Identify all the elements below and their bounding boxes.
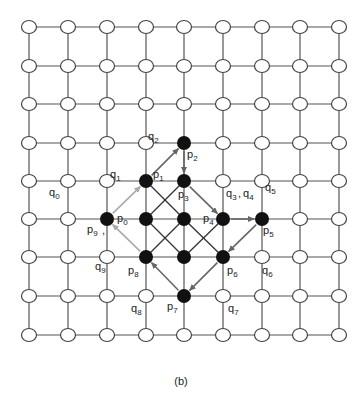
- node-label: p5: [263, 224, 274, 239]
- empty-node: [293, 175, 308, 188]
- empty-node: [22, 290, 37, 303]
- node-label: p8: [128, 264, 139, 279]
- arrow-p3-to-p4: [190, 187, 218, 214]
- node-label: p7: [167, 300, 178, 315]
- node-label: p3: [178, 188, 189, 203]
- empty-node: [255, 329, 270, 342]
- node-label: q7: [228, 302, 239, 317]
- empty-node: [61, 21, 76, 34]
- empty-node: [216, 21, 231, 34]
- empty-node: [177, 329, 192, 342]
- empty-node: [61, 60, 76, 73]
- empty-node: [332, 60, 347, 73]
- empty-node: [293, 60, 308, 73]
- figure-caption: (b): [174, 375, 187, 387]
- empty-node: [332, 329, 347, 342]
- empty-node: [61, 213, 76, 226]
- node-label: p6: [227, 264, 238, 279]
- empty-node: [332, 213, 347, 226]
- empty-node: [332, 98, 347, 111]
- empty-node: [61, 175, 76, 188]
- node-labels: q0q1q2p1p2p3q3,q4q5p0p9,p4p5q9p8p6q6q8p7…: [49, 130, 276, 317]
- empty-node: [293, 98, 308, 111]
- empty-node: [61, 137, 76, 150]
- occupied-node: [139, 174, 153, 188]
- empty-node: [100, 290, 115, 303]
- empty-node: [293, 213, 308, 226]
- node-label: q5: [265, 181, 276, 196]
- empty-node: [61, 290, 76, 303]
- node-label: p0: [117, 212, 128, 227]
- occupied-node: [139, 250, 153, 264]
- empty-node: [332, 175, 347, 188]
- empty-node: [22, 21, 37, 34]
- empty-node: [255, 251, 270, 264]
- arrow-p7-to-p8: [152, 263, 179, 291]
- empty-node: [293, 137, 308, 150]
- empty-node: [216, 290, 231, 303]
- node-label: p9: [87, 223, 98, 238]
- node-label: q3: [226, 187, 237, 202]
- empty-node: [216, 329, 231, 342]
- empty-node: [100, 251, 115, 264]
- empty-node: [332, 290, 347, 303]
- empty-node: [293, 329, 308, 342]
- empty-node: [100, 137, 115, 150]
- empty-node: [22, 329, 37, 342]
- node-label: q4: [243, 187, 254, 202]
- occupied-node: [216, 250, 230, 264]
- node-label: q0: [49, 186, 60, 201]
- empty-node: [293, 21, 308, 34]
- empty-node: [255, 290, 270, 303]
- empty-node: [293, 251, 308, 264]
- node-label: p4: [203, 212, 214, 227]
- empty-node: [177, 98, 192, 111]
- occupied-node: [177, 250, 191, 264]
- arrow-p6-to-p7: [190, 263, 218, 291]
- empty-node: [255, 21, 270, 34]
- empty-node: [216, 137, 231, 150]
- empty-node: [61, 98, 76, 111]
- empty-node: [22, 60, 37, 73]
- node-label: q6: [262, 264, 273, 279]
- empty-node: [255, 137, 270, 150]
- empty-node: [177, 60, 192, 73]
- node-label: ,: [102, 224, 105, 236]
- empty-node: [100, 60, 115, 73]
- empty-node: [61, 251, 76, 264]
- empty-node: [293, 290, 308, 303]
- empty-node: [100, 21, 115, 34]
- empty-node: [255, 98, 270, 111]
- node-label: p2: [187, 148, 198, 163]
- empty-node: [139, 329, 154, 342]
- empty-node: [139, 21, 154, 34]
- empty-node: [177, 21, 192, 34]
- empty-node: [216, 60, 231, 73]
- occupied-node: [177, 289, 191, 303]
- empty-node: [139, 98, 154, 111]
- arrow-p9-to-p1: [113, 187, 141, 214]
- empty-node: [100, 98, 115, 111]
- arrow-p5-to-p6: [229, 225, 257, 252]
- empty-node: [100, 329, 115, 342]
- empty-node: [332, 21, 347, 34]
- empty-node: [22, 251, 37, 264]
- occupied-node: [177, 212, 191, 226]
- empty-node: [332, 251, 347, 264]
- occupied-node: [216, 212, 230, 226]
- empty-node: [22, 137, 37, 150]
- node-label: ,: [238, 187, 241, 199]
- empty-node: [22, 175, 37, 188]
- occupied-node: [177, 174, 191, 188]
- grid-diagram: q0q1q2p1p2p3q3,q4q5p0p9,p4p5q9p8p6q6q8p7…: [0, 0, 362, 394]
- empty-node: [332, 137, 347, 150]
- empty-node: [22, 213, 37, 226]
- empty-node: [255, 60, 270, 73]
- node-label: q8: [131, 302, 142, 317]
- empty-node: [139, 60, 154, 73]
- empty-node: [22, 98, 37, 111]
- occupied-node: [139, 212, 153, 226]
- empty-node: [61, 329, 76, 342]
- empty-node: [139, 290, 154, 303]
- arrow-p8-to-p9: [113, 225, 141, 252]
